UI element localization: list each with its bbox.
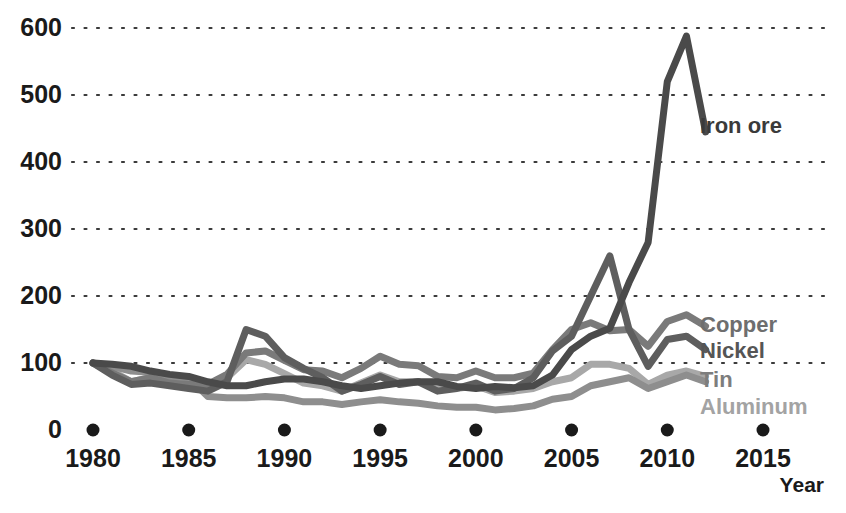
x-tick-label-1985: 1985: [161, 444, 217, 472]
series-label-copper: Copper: [700, 312, 777, 337]
x-tick-marker-1990: [278, 424, 291, 437]
x-tick-marker-1985: [182, 424, 195, 437]
y-tick-label-600: 600: [20, 13, 62, 41]
x-tick-label-1995: 1995: [352, 444, 408, 472]
series-label-nickel: Nickel: [700, 338, 765, 363]
data-series-group: [93, 36, 706, 410]
y-tick-label-100: 100: [20, 348, 62, 376]
series-label-tin: Tin: [700, 367, 733, 392]
series-line-iron-ore: [93, 36, 706, 388]
x-tick-label-2000: 2000: [448, 444, 504, 472]
series-label-aluminum: Aluminum: [700, 394, 808, 419]
x-tick-markers-group: [87, 424, 770, 437]
chart-container: 6005004003002001000 19801985199019952000…: [0, 0, 846, 513]
y-tick-label-500: 500: [20, 80, 62, 108]
x-tick-marker-1995: [374, 424, 387, 437]
x-tick-marker-2005: [565, 424, 578, 437]
x-tick-labels-group: 19801985199019952000200520102015: [65, 444, 791, 472]
x-tick-label-1980: 1980: [65, 444, 121, 472]
x-axis-title: Year: [780, 473, 824, 496]
x-tick-label-2010: 2010: [639, 444, 695, 472]
y-tick-label-0: 0: [48, 415, 62, 443]
x-tick-label-1990: 1990: [257, 444, 313, 472]
x-tick-marker-1980: [87, 424, 100, 437]
series-label-iron-ore: Iron ore: [700, 113, 782, 138]
y-tick-label-400: 400: [20, 147, 62, 175]
line-chart: 6005004003002001000 19801985199019952000…: [0, 0, 846, 513]
x-tick-marker-2015: [757, 424, 770, 437]
y-tick-label-200: 200: [20, 281, 62, 309]
x-tick-marker-2000: [469, 424, 482, 437]
x-tick-label-2005: 2005: [544, 444, 600, 472]
series-labels-group: Iron oreCopperNickelTinAluminum: [700, 113, 808, 419]
y-tick-labels-group: 6005004003002001000: [20, 13, 62, 443]
y-tick-label-300: 300: [20, 214, 62, 242]
x-tick-label-2015: 2015: [735, 444, 791, 472]
x-tick-marker-2010: [661, 424, 674, 437]
